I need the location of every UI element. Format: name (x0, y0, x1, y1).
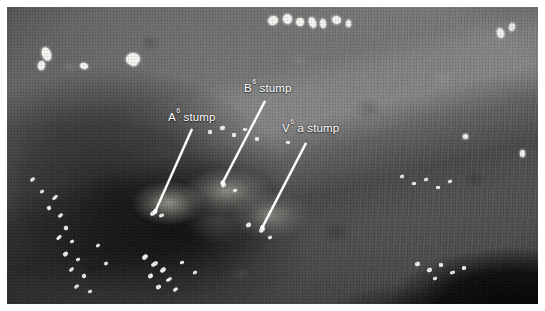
endoscopic-photograph: A6 stumpB6 stumpV6 a stump (7, 7, 538, 304)
annotation-layer: A6 stumpB6 stumpV6 a stump (7, 7, 538, 304)
leader-line-v6a-stump (261, 143, 307, 229)
annotation-suffix: stump (256, 82, 291, 94)
annotation-superscript: 6 (176, 107, 181, 114)
annotation-label-a6-stump: A6 stump (168, 112, 215, 124)
annotation-label-v6a-stump: V6 a stump (282, 123, 339, 135)
annotation-suffix: a stump (294, 122, 339, 134)
annotation-prefix: B (244, 82, 252, 94)
annotation-prefix: A (168, 111, 176, 123)
annotation-label-b6-stump: B6 stump (244, 83, 291, 95)
leader-line-a6-stump (154, 129, 193, 213)
annotation-superscript: 6 (252, 78, 257, 85)
annotation-suffix: stump (180, 111, 215, 123)
annotation-prefix: V (282, 122, 290, 134)
leader-line-b6-stump (221, 101, 266, 185)
figure-container: A6 stumpB6 stumpV6 a stump (0, 0, 545, 311)
annotation-superscript: 6 (290, 118, 295, 125)
